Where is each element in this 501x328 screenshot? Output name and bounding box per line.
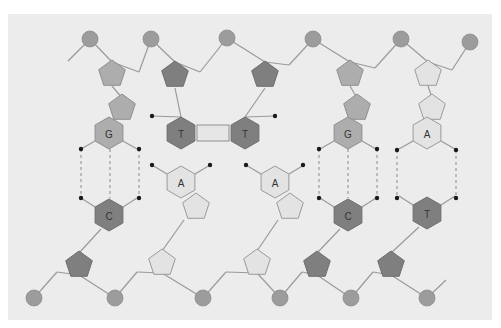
- bond-dot: [395, 196, 399, 200]
- phosphate-circle: [272, 290, 288, 306]
- phosphate-circle: [219, 30, 235, 46]
- phosphate-circle: [26, 290, 42, 306]
- base-label: G: [344, 129, 352, 140]
- bond-dot: [150, 114, 154, 118]
- bond-dot: [244, 163, 248, 167]
- base-label: T: [424, 209, 430, 220]
- base-label: T: [242, 129, 248, 140]
- bond-dot: [454, 148, 458, 152]
- phosphate-circle: [195, 290, 211, 306]
- bond-dot: [273, 114, 277, 118]
- phosphate-circle: [343, 290, 359, 306]
- thymine-dimer-bond: [197, 125, 229, 141]
- bond-dot: [375, 196, 379, 200]
- bond-dot: [301, 163, 305, 167]
- bond-dot: [317, 196, 321, 200]
- base-label: C: [344, 211, 351, 222]
- bond-dot: [208, 163, 212, 167]
- phosphate-circle: [82, 31, 98, 47]
- base-label: A: [424, 129, 431, 140]
- phosphate-circle: [305, 31, 321, 47]
- base-label: C: [105, 211, 112, 222]
- base-label: A: [178, 178, 185, 189]
- base-label: A: [272, 178, 279, 189]
- bond-dot: [375, 147, 379, 151]
- phosphate-circle: [143, 31, 159, 47]
- bond-dot: [317, 147, 321, 151]
- dna-diagram: GTTGAAACCT: [0, 0, 501, 328]
- base-label: T: [178, 129, 184, 140]
- bond-dot: [454, 196, 458, 200]
- bond-dot: [395, 148, 399, 152]
- phosphate-circle: [462, 34, 478, 50]
- base-label: G: [105, 129, 113, 140]
- bond-dot: [79, 196, 83, 200]
- bond-dot: [137, 196, 141, 200]
- bond-dot: [150, 163, 154, 167]
- bond-dot: [79, 147, 83, 151]
- bond-dot: [137, 147, 141, 151]
- cyclobutane-ring: [197, 125, 229, 141]
- phosphate-circle: [419, 290, 435, 306]
- phosphate-circle: [107, 290, 123, 306]
- phosphate-circle: [393, 31, 409, 47]
